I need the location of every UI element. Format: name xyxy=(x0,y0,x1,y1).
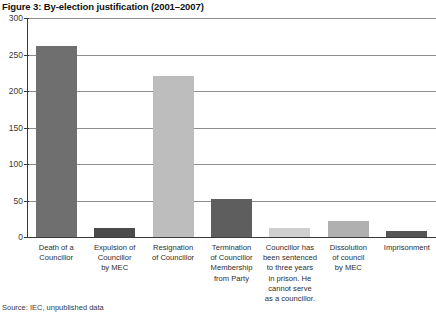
source-note: Source: IEC, unpublished data xyxy=(2,303,104,314)
x-axis-label-line: been sentenced xyxy=(261,253,319,263)
x-axis-label-line: by MEC xyxy=(319,263,377,273)
x-axis-label-line: of Councillor xyxy=(144,253,202,263)
x-axis-label: Terminationof CouncillorMembershipfrom P… xyxy=(202,243,260,284)
bar xyxy=(269,228,310,237)
y-tick-label-200: 200 xyxy=(0,87,23,95)
x-axis-label: Expulsion ofCouncillorby MEC xyxy=(85,243,143,274)
x-axis-label-line: of Councillor xyxy=(202,253,260,263)
y-tick-mark-300 xyxy=(24,18,29,19)
y-tick-mark-250 xyxy=(24,55,29,56)
x-axis-label: Councillor hasbeen sentencedto three yea… xyxy=(261,243,319,304)
bar xyxy=(211,199,252,237)
x-axis-label-line: from Party xyxy=(202,274,260,284)
x-axis-label-line: Councillor xyxy=(85,253,143,263)
y-tick-mark-0 xyxy=(24,237,29,238)
bar xyxy=(153,76,194,237)
y-tick-mark-100 xyxy=(24,164,29,165)
x-axis-label: Resignationof Councillor xyxy=(144,243,202,263)
bar-chart: 050100150200250300 Death of aCouncillorE… xyxy=(0,13,436,298)
y-tick-mark-200 xyxy=(24,91,29,92)
y-tick-mark-150 xyxy=(24,128,29,129)
gridline-0 xyxy=(27,237,436,238)
x-axis-label-line: in prison. He xyxy=(261,274,319,284)
y-tick-label-300: 300 xyxy=(0,14,23,22)
x-axis-label-line: Resignation xyxy=(144,243,202,253)
x-axis-label-line: Imprisonment xyxy=(378,243,436,253)
x-axis-label-line: Termination xyxy=(202,243,260,253)
bar xyxy=(386,231,427,237)
bar-series xyxy=(27,18,436,237)
x-axis-label-line: Expulsion of xyxy=(85,243,143,253)
y-tick-mark-50 xyxy=(24,201,29,202)
x-axis-label-line: Councillor has xyxy=(261,243,319,253)
x-axis-label: Dissolutionof councilby MEC xyxy=(319,243,377,274)
x-axis-label-line: Dissolution xyxy=(319,243,377,253)
y-tick-label-50: 50 xyxy=(0,197,23,205)
plot-area xyxy=(27,18,436,237)
x-axis-labels: Death of aCouncillorExpulsion ofCouncill… xyxy=(27,243,436,303)
x-axis-label-line: Councillor xyxy=(27,253,85,263)
y-tick-label-250: 250 xyxy=(0,51,23,59)
x-axis-label-line: cannot serve xyxy=(261,284,319,294)
figure-title: Figure 3: By-election justification (200… xyxy=(2,0,204,13)
x-axis-label-line: Membership xyxy=(202,263,260,273)
x-axis-label-line: of council xyxy=(319,253,377,263)
bar xyxy=(94,228,135,237)
x-axis-label-line: to three years xyxy=(261,263,319,273)
bar xyxy=(328,221,369,237)
x-axis-label: Imprisonment xyxy=(378,243,436,253)
bar xyxy=(36,46,77,237)
x-axis-label-line: as a councillor. xyxy=(261,294,319,304)
y-tick-label-100: 100 xyxy=(0,160,23,168)
x-axis-label-line: by MEC xyxy=(85,263,143,273)
x-axis-label-line: Death of a xyxy=(27,243,85,253)
x-axis-label: Death of aCouncillor xyxy=(27,243,85,263)
y-tick-label-150: 150 xyxy=(0,124,23,132)
y-tick-label-0: 0 xyxy=(0,233,23,241)
